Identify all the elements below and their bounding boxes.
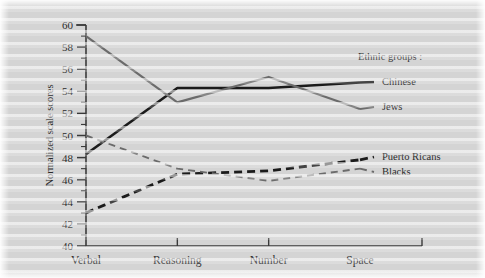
legend-label-blacks: Blacks (382, 166, 411, 177)
chart-legend: Ethnic groups :ChineseJewsPuerto RicansB… (358, 51, 441, 177)
line-chart-plot: Ethnic groups :ChineseJewsPuerto RicansB… (0, 0, 485, 278)
series-line-jews (86, 36, 360, 109)
y-axis-title: Normalized scale scores (44, 84, 55, 186)
y-tick-label: 44 (62, 196, 74, 208)
x-category-label: Reasoning (153, 254, 202, 267)
x-category-label: Number (250, 254, 288, 266)
y-tick-label: 40 (62, 240, 74, 252)
x-category-label: Space (346, 254, 373, 267)
y-tick-label: 52 (62, 107, 73, 119)
y-tick-label: 58 (62, 41, 74, 53)
y-tick-label: 50 (62, 130, 74, 142)
legend-label-jews: Jews (382, 101, 402, 112)
y-tick-label: 60 (62, 19, 74, 31)
series-line-puerto-ricans (86, 160, 360, 213)
legend-leader-puerto-ricans (360, 157, 374, 160)
series-line-chinese (86, 82, 360, 154)
y-tick-label: 46 (62, 174, 74, 186)
y-tick-label: 42 (62, 218, 73, 230)
series-line-blacks (86, 136, 360, 181)
chart-series-layer (86, 36, 360, 213)
y-tick-label: 56 (62, 63, 74, 75)
legend-leader-blacks (360, 169, 374, 172)
chart-labels: 4042444648505254565860VerbalReasoningNum… (44, 19, 374, 267)
legend-label-puerto-ricans: Puerto Ricans (382, 151, 441, 162)
y-tick-label: 48 (62, 152, 74, 164)
legend-label-chinese: Chinese (382, 76, 416, 87)
x-category-label: Verbal (71, 254, 101, 266)
y-tick-label: 54 (62, 85, 74, 97)
chart-figure: Ethnic groups :ChineseJewsPuerto RicansB… (0, 0, 485, 278)
legend-title: Ethnic groups : (358, 51, 422, 62)
legend-leader-jews (360, 107, 374, 109)
